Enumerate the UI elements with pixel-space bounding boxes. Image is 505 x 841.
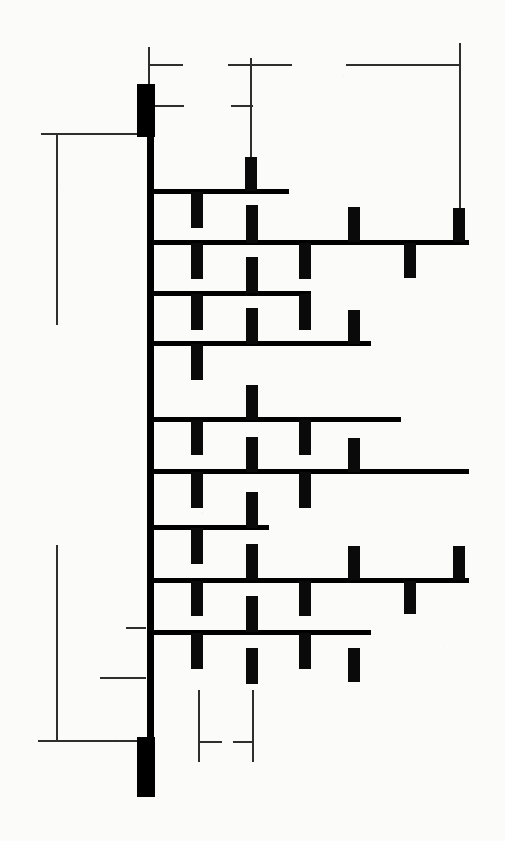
- spine-wall: [147, 135, 153, 741]
- north-terminal-block: [137, 84, 154, 136]
- pier-p08: [404, 243, 416, 278]
- pier-p02: [191, 192, 203, 228]
- pier-p33: [348, 648, 360, 682]
- pier-p06: [191, 243, 203, 279]
- pier-p28: [299, 581, 311, 616]
- plan-vector-layer: [0, 0, 505, 841]
- pier-p19: [348, 438, 360, 472]
- cross-wall-w01: [150, 189, 288, 193]
- pier-p14: [191, 344, 203, 380]
- pier-p17: [299, 420, 311, 455]
- pier-p32: [299, 633, 311, 669]
- top-right-dimension: [346, 43, 461, 238]
- pier-p24: [246, 544, 258, 580]
- pier-p25: [348, 546, 360, 580]
- pier-p07: [299, 243, 311, 279]
- pier-p18: [246, 437, 258, 472]
- pier-p12: [246, 308, 258, 344]
- pier-p16: [191, 420, 203, 455]
- pier-p34: [246, 648, 258, 684]
- pier-p30: [246, 596, 258, 632]
- pier-p11: [299, 294, 311, 330]
- pier-p04: [348, 207, 360, 242]
- bottom-dimension: [199, 690, 254, 762]
- pier-p09: [246, 257, 258, 293]
- left-lower-dimension: [38, 545, 147, 741]
- pier-p31: [191, 633, 203, 669]
- left-upper-dimension: [41, 134, 147, 325]
- pier-p26: [453, 546, 465, 580]
- floor-plan-canvas: Floor Plan — Spine Wall with Pier Bays: [0, 0, 505, 841]
- pier-p22: [246, 492, 258, 528]
- pier-p01: [245, 157, 257, 191]
- pier-p03: [246, 205, 258, 243]
- pier-p05: [453, 208, 465, 242]
- pier-p13: [348, 310, 360, 344]
- top-middle-dimension: [228, 58, 292, 185]
- pier-p21: [299, 472, 311, 508]
- pier-p20: [191, 472, 203, 508]
- cross-wall-w09: [150, 630, 370, 634]
- cross-wall-w03: [150, 291, 310, 295]
- pier-p27: [191, 581, 203, 616]
- pier-p15: [246, 385, 258, 420]
- cross-wall-w04: [150, 341, 370, 345]
- cross-wall-w05: [150, 417, 400, 421]
- pier-p23: [191, 528, 203, 564]
- pier-p10: [191, 294, 203, 330]
- pier-p29: [404, 581, 416, 614]
- south-terminal-block: [137, 737, 154, 796]
